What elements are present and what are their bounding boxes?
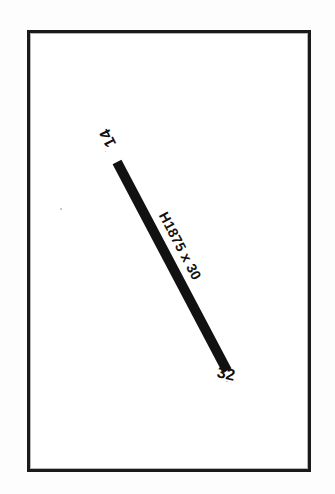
drawing-canvas: H1875 x 30 14 32 [0, 0, 335, 494]
scan-speck [105, 151, 106, 152]
node-label-end: 32 [216, 364, 237, 383]
scan-speck [60, 208, 62, 210]
